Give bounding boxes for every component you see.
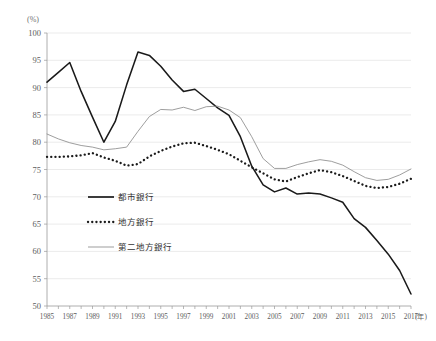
y-tick-label: 55 <box>33 274 42 284</box>
y-tick-label: 50 <box>33 301 42 311</box>
x-axis: 1985198719891991199319951997199920012003… <box>40 306 428 321</box>
y-axis: 50556065707580859095100 <box>28 28 47 311</box>
x-tick-label: 2003 <box>245 313 260 321</box>
y-tick-label: 85 <box>33 110 42 120</box>
legend-label: 第二地方銀行 <box>118 242 172 252</box>
y-tick-label: 70 <box>33 192 42 202</box>
y-tick-label: 90 <box>33 83 42 93</box>
x-tick-label: 1999 <box>199 313 214 321</box>
x-axis-unit-label: (年) <box>415 312 427 321</box>
x-tick-label: 2015 <box>381 313 396 321</box>
x-tick-label: 2007 <box>290 313 305 321</box>
x-tick-label: 1993 <box>131 313 146 321</box>
x-tick-label: 2011 <box>336 313 351 321</box>
x-tick-label: 1991 <box>108 313 123 321</box>
chart-container: 50556065707580859095100 1985198719891991… <box>0 0 436 341</box>
legend-item: 第二地方銀行 <box>88 242 172 252</box>
x-tick-label: 1989 <box>85 313 100 321</box>
x-tick-label: 2005 <box>267 313 282 321</box>
x-tick-label: 2001 <box>222 313 237 321</box>
x-tick-label: 2009 <box>313 313 328 321</box>
y-tick-label: 80 <box>33 137 42 147</box>
plot-series <box>47 52 411 294</box>
y-tick-label: 95 <box>33 55 42 65</box>
x-tick-label: 1985 <box>40 313 55 321</box>
x-tick-label: 1995 <box>154 313 169 321</box>
x-tick-label: 2013 <box>358 313 373 321</box>
y-tick-label: 100 <box>28 28 41 38</box>
y-tick-label: 65 <box>33 219 42 229</box>
line-chart: 50556065707580859095100 1985198719891991… <box>0 0 436 341</box>
legend-label: 都市銀行 <box>118 192 154 202</box>
y-tick-label: 60 <box>33 246 42 256</box>
y-axis-unit-label: (%) <box>27 15 39 24</box>
legend-item: 地方銀行 <box>88 217 154 227</box>
x-tick-label: 1987 <box>63 313 78 321</box>
legend-item: 都市銀行 <box>88 192 154 202</box>
y-tick-label: 75 <box>33 165 42 175</box>
legend-label: 地方銀行 <box>118 217 154 227</box>
x-tick-label: 1997 <box>176 313 191 321</box>
chart-legend: 都市銀行地方銀行第二地方銀行 <box>88 192 172 252</box>
